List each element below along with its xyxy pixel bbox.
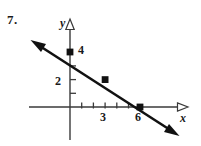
x-axis-arrowhead-icon (178, 103, 189, 111)
line-arrowhead-upper-left-icon (31, 40, 47, 52)
y-tick-label-4: 4 (78, 44, 84, 56)
x-tick-label-3: 3 (100, 111, 106, 123)
data-point-marker (67, 49, 74, 56)
x-tick-label-6: 6 (135, 111, 141, 123)
x-axis-label: x (180, 112, 186, 124)
y-axis-label: y (60, 17, 65, 29)
line-arrowhead-lower-right-icon (164, 124, 180, 136)
figure-container: 7. (0, 0, 201, 146)
coordinate-plane-graph (0, 0, 201, 146)
y-tick-label-2: 2 (55, 75, 61, 87)
data-point-marker (102, 76, 109, 83)
y-axis-arrowhead-icon (66, 19, 74, 30)
